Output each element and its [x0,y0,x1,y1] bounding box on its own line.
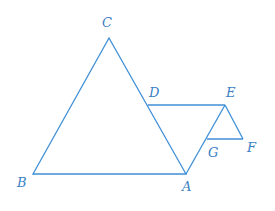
label-b: B [16,175,27,190]
label-c: C [102,15,112,30]
label-d: D [148,85,160,100]
geometry-diagram: C B A D E G F [0,0,275,211]
label-f: F [246,140,257,155]
label-g: G [208,145,218,160]
triangle-abc [33,38,186,174]
label-a: A [181,179,191,194]
label-e: E [225,85,236,100]
segment-ef [225,105,243,139]
